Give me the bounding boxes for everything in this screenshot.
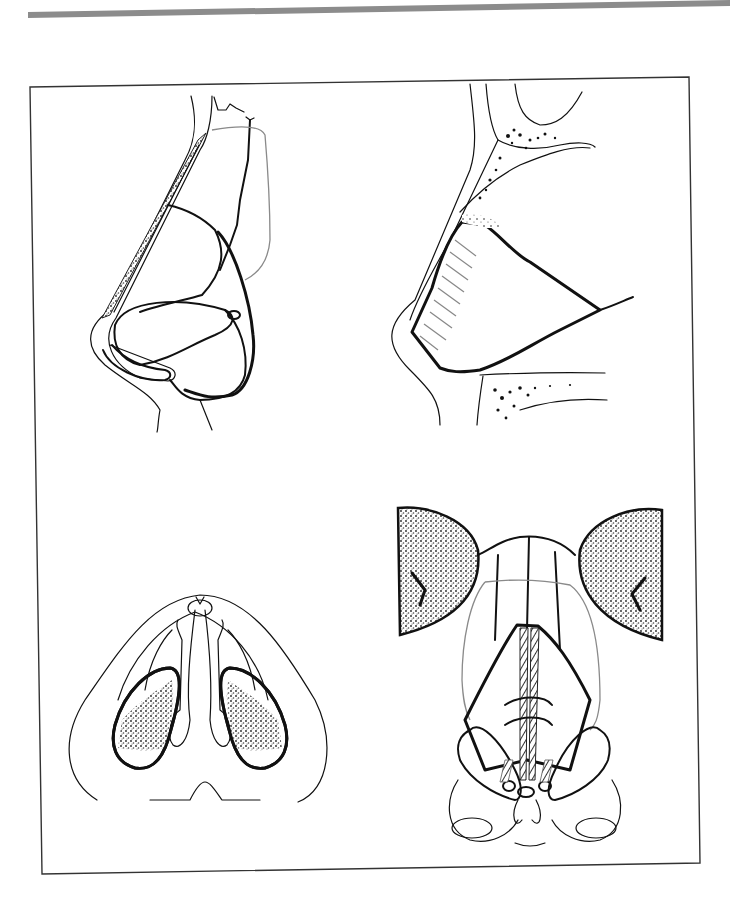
panel-bottom-right-frontal-view <box>398 508 662 846</box>
figure-frame <box>30 77 700 874</box>
figure <box>0 0 730 907</box>
panel-top-left-lateral-view <box>91 96 270 432</box>
panel-bottom-left-basal-view <box>69 595 327 802</box>
panel-top-right-sagittal-view <box>392 84 633 425</box>
